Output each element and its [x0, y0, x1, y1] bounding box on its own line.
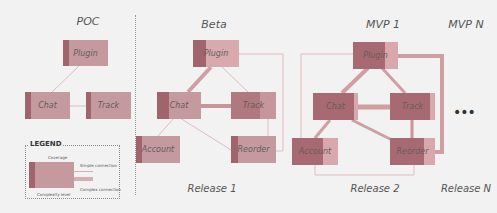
node-label: Track [98, 101, 120, 110]
connection-mvp1-chat-account [315, 120, 330, 138]
legend-coverage-label: Coverage [48, 155, 67, 160]
stage-title-mvp1: MVP 1 [366, 18, 400, 31]
release-label-n: Release N [441, 183, 491, 194]
stage-title-poc: POC [77, 15, 100, 28]
connection-mvp1-account-reorder [315, 165, 414, 175]
node-beta-track: Track [231, 92, 276, 119]
connection-poc-plugin-chat [52, 65, 80, 92]
node-beta-chat: Chat [157, 92, 201, 119]
node-label: Track [243, 101, 265, 110]
legend-complexity-label: Complexity level [37, 192, 70, 197]
node-label: Account [142, 145, 174, 154]
connection-beta-plugin-chat [188, 67, 211, 92]
node-mvp1-account: Account [292, 138, 338, 165]
node-label: Plugin [204, 49, 229, 58]
connection-beta-chat-account [158, 118, 174, 136]
node-mvp1-track: Track [390, 93, 435, 120]
complexity-bar [25, 92, 31, 119]
connection-mvp1-chat-reorder [352, 120, 392, 140]
connection-beta-plugin-track [222, 67, 248, 92]
node-label: Chat [38, 101, 57, 110]
node-mvp1-reorder: Reorder [390, 138, 435, 165]
legend-title: LEGEND [28, 140, 63, 148]
release-label-1: Release 1 [187, 183, 236, 194]
node-mvp1-plugin: Plugin [353, 42, 398, 69]
legend-complexity-bar [29, 162, 35, 188]
node-beta-reorder: Reorder [231, 136, 276, 163]
legend-complex-label: Complex connection [80, 187, 121, 192]
complexity-bar [86, 92, 91, 119]
poc-divider [135, 15, 136, 195]
node-label: Reorder [397, 147, 429, 156]
legend-complex-line [74, 177, 93, 181]
node-mvp1-chat: Chat [313, 93, 358, 120]
node-label: Track [402, 102, 424, 111]
node-poc-track: Track [86, 92, 131, 119]
node-label: Account [299, 147, 331, 156]
node-beta-account: Account [136, 136, 180, 163]
coverage-bar [354, 93, 358, 120]
stage-title-mvpn: MVP N [448, 18, 483, 31]
legend-simple-line [74, 171, 93, 172]
legend-node-sample [29, 162, 74, 188]
complexity-bar [63, 40, 69, 66]
stage-title-beta: Beta [201, 18, 226, 31]
ellipsis-icon: ••• [453, 104, 475, 120]
coverage-bar [430, 93, 435, 120]
node-label: Plugin [363, 51, 388, 60]
complexity-bar [157, 92, 169, 119]
node-poc-plugin: Plugin [63, 40, 108, 66]
release-label-2: Release 2 [350, 183, 399, 194]
connection-mvp1-plugin-chat [342, 68, 368, 93]
node-label: Plugin [73, 49, 98, 58]
node-poc-chat: Chat [25, 92, 70, 119]
node-label: Chat [170, 101, 189, 110]
node-beta-plugin: Plugin [193, 40, 239, 67]
node-label: Reorder [238, 145, 270, 154]
connection-beta-chat-reorder [180, 118, 231, 150]
connection-mvp1-plugin-track [382, 68, 405, 93]
legend-simple-label: Simple connection [80, 163, 117, 168]
node-label: Chat [326, 102, 345, 111]
diagram: POC Beta MVP 1 MVP N Plugin Chat Track L… [0, 0, 497, 213]
